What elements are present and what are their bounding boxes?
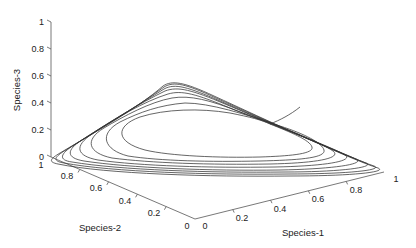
x-tick-0.4: 0.4 xyxy=(274,204,287,214)
y-tick-0.6: 0.6 xyxy=(90,183,103,193)
x-axis-line xyxy=(195,172,384,219)
trajectory-loop-6 xyxy=(62,86,367,172)
trajectory-loop-4 xyxy=(80,93,347,168)
trajectory-start-tail xyxy=(270,107,300,124)
y-axis-title: Species-2 xyxy=(79,222,121,233)
x-tick-1: 1 xyxy=(393,174,398,184)
z-tick-0.4: 0.4 xyxy=(31,98,44,108)
z-tick-1: 1 xyxy=(39,17,44,27)
z-tick-0.8: 0.8 xyxy=(31,44,44,54)
x-tick-0.8: 0.8 xyxy=(350,185,363,195)
y-tick-0.4: 0.4 xyxy=(119,196,132,206)
axes: 0 0.2 0.4 0.6 0.8 1 1 0.8 0.6 0.4 0.2 0 xyxy=(11,17,399,238)
x-tick-0: 0 xyxy=(202,221,207,231)
z-tick-0.6: 0.6 xyxy=(31,71,44,81)
z-ticks: 0 0.2 0.4 0.6 0.8 1 xyxy=(31,17,51,162)
x-axis-title: Species-1 xyxy=(282,227,324,238)
trajectory-loop-8 xyxy=(51,83,379,176)
z-tick-0.2: 0.2 xyxy=(31,125,44,135)
x-tick-0.6: 0.6 xyxy=(312,194,325,204)
y-tick-0: 0 xyxy=(184,221,189,231)
trajectory-series xyxy=(51,83,379,176)
phase-plot-3d: 0 0.2 0.4 0.6 0.8 1 1 0.8 0.6 0.4 0.2 0 xyxy=(0,0,416,248)
y-tick-1: 1 xyxy=(38,160,43,170)
x-tick-0.2: 0.2 xyxy=(236,213,249,223)
trajectory-loop-1 xyxy=(122,110,312,157)
y-tick-0.8: 0.8 xyxy=(61,171,74,181)
z-axis-title: Species-3 xyxy=(11,69,22,111)
y-tick-0.2: 0.2 xyxy=(148,208,161,218)
x-ticks: 0 0.2 0.4 0.6 0.8 1 xyxy=(202,174,398,231)
